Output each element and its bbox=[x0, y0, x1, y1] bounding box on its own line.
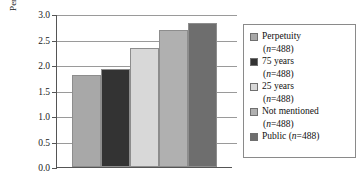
legend-item[interactable]: 25 years bbox=[250, 81, 355, 93]
legend-item-label: Not mentioned bbox=[262, 106, 319, 118]
legend-swatch-icon bbox=[250, 33, 258, 41]
legend-box: Perpetuity(n=488)75 years(n=488)25 years… bbox=[243, 24, 356, 158]
legend-swatch-icon bbox=[250, 133, 258, 141]
y-axis-tick-label: 1.5 bbox=[38, 87, 50, 97]
legend-item-sample-size: (n=488) bbox=[263, 119, 355, 131]
y-axis-tick-label: 0.0 bbox=[38, 163, 50, 173]
legend-item[interactable]: Perpetuity bbox=[250, 31, 355, 43]
y-axis-tick-label: 3.0 bbox=[38, 10, 50, 20]
legend-item-sample-size: (n=488) bbox=[263, 94, 355, 106]
bar bbox=[130, 48, 159, 167]
legend-item-sample-size: (n=488) bbox=[263, 44, 355, 56]
y-axis-title: Percent refused bbox=[8, 0, 18, 38]
bar bbox=[72, 75, 101, 167]
y-axis-tick-label: 2.0 bbox=[38, 61, 50, 71]
legend-item[interactable]: Public (n=488) bbox=[250, 131, 355, 143]
y-axis-tick bbox=[52, 168, 57, 169]
legend-swatch-icon bbox=[250, 108, 258, 116]
legend-item[interactable]: 75 years bbox=[250, 56, 355, 68]
legend-item-label: 25 years bbox=[262, 81, 294, 93]
legend-swatch-icon bbox=[250, 83, 258, 91]
legend-item-label: 75 years bbox=[262, 56, 294, 68]
y-axis-tick-label: 1.0 bbox=[38, 112, 50, 122]
legend-swatch-icon bbox=[250, 58, 258, 66]
y-axis-tick-label: 2.5 bbox=[38, 36, 50, 46]
y-axis-tick-label: 0.5 bbox=[38, 138, 50, 148]
plot-area: 3.02.52.01.51.00.50.0 bbox=[56, 15, 232, 168]
bar-group bbox=[57, 14, 233, 167]
legend-item-label: Perpetuity bbox=[262, 31, 301, 43]
bar-chart-figure: Percent refused 3.02.52.01.51.00.50.0 Pe… bbox=[0, 0, 364, 185]
legend-item-label: Public (n=488) bbox=[262, 131, 319, 143]
legend-item[interactable]: Not mentioned bbox=[250, 106, 355, 118]
legend-item-sample-size: (n=488) bbox=[263, 69, 355, 81]
bar bbox=[159, 30, 188, 167]
bar bbox=[188, 23, 217, 167]
bar bbox=[101, 69, 130, 167]
